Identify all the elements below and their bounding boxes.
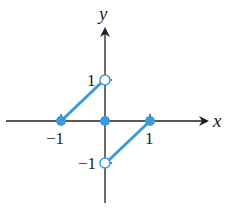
open-point-0-neg1 (100, 158, 110, 168)
x-tick-label-1: 1 (145, 129, 154, 148)
function-graph: x y −1 1 1 −1 (0, 0, 240, 213)
closed-point-0-0 (100, 116, 110, 126)
x-tick-label-neg1: −1 (46, 129, 64, 148)
y-tick-label-1: 1 (87, 71, 96, 90)
y-axis-label: y (97, 3, 108, 24)
y-tick-label-neg1: −1 (78, 154, 96, 173)
closed-point-neg1-0 (56, 116, 66, 126)
segment-right (109, 121, 150, 160)
closed-point-1-0 (145, 116, 155, 126)
x-axis-label: x (212, 110, 222, 131)
open-point-0-1 (100, 75, 110, 85)
segment-left (61, 83, 101, 121)
